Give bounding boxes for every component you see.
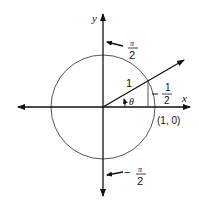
angle-label: θ — [129, 96, 134, 107]
bottom-label-sign: − — [124, 166, 130, 178]
radius-ray — [103, 60, 184, 107]
x-axis-label: x — [181, 92, 187, 104]
y-axis-label: y — [91, 12, 97, 24]
bottom-pointer-arrow-icon — [107, 172, 123, 175]
point-label: (1, 0) — [157, 115, 180, 126]
radius-label: 1 — [126, 77, 132, 89]
unit-circle-diagram: y x π 2 1 θ 1 2 (1, 0) − π 2 — [0, 0, 199, 203]
angle-arc-icon — [124, 99, 125, 107]
bottom-label-denominator: 2 — [137, 175, 143, 187]
top-pointer-arrow-icon — [107, 42, 123, 46]
top-label-numerator: π — [130, 39, 135, 48]
height-label-denominator: 2 — [164, 95, 170, 106]
top-label-denominator: 2 — [129, 49, 135, 61]
bottom-label-numerator: π — [138, 165, 143, 174]
height-label-numerator: 1 — [165, 82, 171, 93]
